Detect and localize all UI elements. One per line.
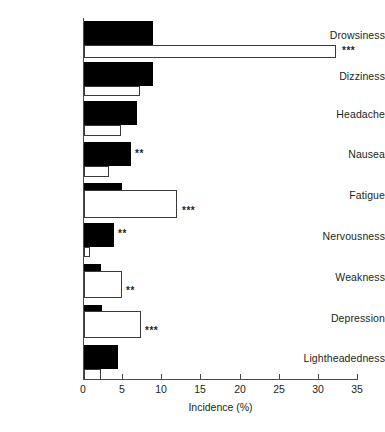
- significance-nervousness: **: [118, 229, 127, 239]
- x-tick-mark-5: [122, 374, 123, 380]
- category-label-drowsiness: Drowsiness: [303, 29, 385, 41]
- bar-white-headache: [84, 125, 121, 136]
- bar-black-nervousness: [84, 223, 114, 247]
- bar-black-dizziness: [84, 62, 153, 86]
- x-tick-mark-20: [240, 374, 241, 380]
- bar-white-nervousness: [84, 247, 90, 257]
- x-tick-mark-15: [200, 374, 201, 380]
- x-tick-label-35: 35: [351, 383, 363, 395]
- x-tick-label-25: 25: [273, 383, 285, 395]
- x-tick-mark-35: [357, 374, 358, 380]
- significance-fatigue: ***: [182, 206, 195, 216]
- x-tick-label-10: 10: [155, 383, 167, 395]
- bar-white-depression: [84, 311, 141, 338]
- x-axis-line: [83, 379, 358, 380]
- significance-weakness: **: [126, 286, 135, 296]
- bar-black-drowsiness: [84, 21, 153, 45]
- bar-white-weakness: [84, 271, 122, 298]
- x-tick-label-15: 15: [194, 383, 206, 395]
- x-tick-mark-0: [83, 374, 84, 380]
- significance-nausea: **: [135, 149, 144, 159]
- x-tick-label-20: 20: [234, 383, 246, 395]
- bar-black-nausea: [84, 142, 131, 166]
- category-label-nervousness: Nervousness: [303, 230, 385, 242]
- bar-black-lightheadedness: [84, 345, 118, 369]
- bar-white-fatigue: [84, 190, 177, 218]
- category-label-headache: Headache: [303, 108, 385, 120]
- x-tick-label-5: 5: [119, 383, 125, 395]
- x-tick-mark-10: [161, 374, 162, 380]
- category-label-dizziness: Dizziness: [303, 70, 385, 82]
- x-tick-mark-25: [279, 374, 280, 380]
- x-axis-title: Incidence (%): [83, 401, 358, 413]
- x-tick-mark-30: [318, 374, 319, 380]
- x-tick-label-0: 0: [80, 383, 86, 395]
- category-label-nausea: Nausea: [303, 148, 385, 160]
- bar-white-drowsiness: [84, 45, 336, 58]
- bar-white-dizziness: [84, 86, 140, 96]
- category-label-depression: Depression: [303, 312, 385, 324]
- category-label-lightheadedness: Lightheadedness: [303, 352, 385, 364]
- category-label-fatigue: Fatigue: [303, 189, 385, 201]
- incidence-bar-chart: Drowsiness Dizziness Headache Nausea Fat…: [0, 0, 385, 432]
- significance-depression: ***: [145, 326, 158, 336]
- bar-white-nausea: [84, 166, 109, 177]
- category-label-weakness: Weakness: [303, 271, 385, 283]
- bar-black-headache: [84, 101, 137, 125]
- significance-drowsiness: ***: [342, 46, 355, 56]
- x-tick-label-30: 30: [312, 383, 324, 395]
